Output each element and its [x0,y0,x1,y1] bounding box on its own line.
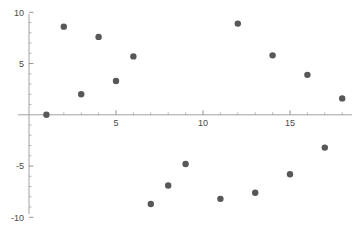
data-point [252,190,258,196]
data-point [95,34,101,40]
y-tick-label: -10 [11,213,24,223]
data-point [287,171,293,177]
x-axis-ticks [46,110,342,115]
data-points [43,20,345,207]
data-point [130,53,136,59]
x-axis-tick-labels: 51015 [113,118,295,128]
data-point [269,52,275,58]
scatter-plot-figure: 51015 105-5-10 [0,0,359,228]
data-point [165,182,171,188]
data-point [182,161,188,167]
y-tick-label: -5 [16,161,24,171]
data-point [113,78,119,84]
plot-canvas: 51015 105-5-10 [0,0,359,228]
data-point [322,144,328,150]
data-point [43,112,49,118]
data-point [235,20,241,26]
data-point [148,201,154,207]
x-tick-label: 5 [113,118,118,128]
data-point [78,91,84,97]
x-tick-label: 10 [198,118,208,128]
data-point [217,196,223,202]
data-point [61,23,67,29]
x-tick-label: 15 [285,118,295,128]
y-tick-label: 5 [19,59,24,69]
y-tick-label: 10 [14,8,24,18]
data-point [339,95,345,101]
data-point [304,72,310,78]
